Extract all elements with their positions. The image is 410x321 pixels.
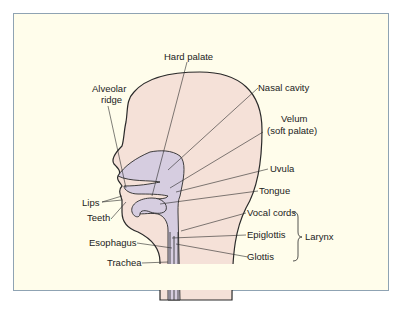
label-larynx: Larynx [305, 231, 334, 242]
label-nasal-cavity: Nasal cavity [258, 82, 309, 93]
label-velum-2: (soft palate) [267, 125, 317, 136]
label-lips: Lips [82, 197, 100, 208]
vocal-tract-diagram: Hard palate Alveolar ridge Nasal cavity … [0, 0, 410, 321]
label-alveolar-ridge-1: Alveolar [92, 83, 126, 94]
label-velum-1: Velum [281, 113, 307, 124]
label-alveolar-ridge-2: ridge [101, 94, 122, 105]
larynx-brace [293, 212, 302, 261]
label-tongue: Tongue [259, 185, 290, 196]
label-esophagus: Esophagus [89, 237, 137, 248]
label-uvula: Uvula [270, 163, 295, 174]
label-epiglottis: Epiglottis [247, 229, 286, 240]
label-teeth: Teeth [87, 212, 110, 223]
label-vocal-cords: Vocal cords [247, 207, 296, 218]
label-glottis: Glottis [247, 251, 274, 262]
label-hard-palate: Hard palate [164, 51, 213, 62]
label-trachea: Trachea [107, 257, 142, 268]
